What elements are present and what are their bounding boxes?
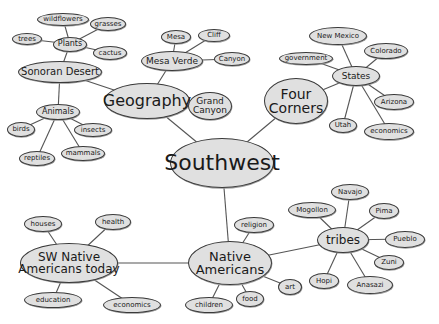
- node-anasazi: Anasazi: [347, 276, 393, 294]
- node-grasses: grasses: [90, 17, 126, 31]
- node-houses: houses: [24, 216, 62, 232]
- node-canyon: Canyon: [214, 52, 250, 66]
- node-economics2: economics: [103, 297, 161, 313]
- node-food: food: [236, 291, 264, 307]
- node-birds: birds: [7, 122, 35, 137]
- node-label: Colorado: [370, 48, 401, 55]
- node-label: Zuni: [381, 259, 397, 266]
- node-grandcanyon: Grand Canyon: [188, 92, 232, 120]
- node-utah: Utah: [329, 118, 357, 133]
- node-label: Pima: [375, 208, 392, 215]
- node-label: States: [342, 72, 371, 81]
- node-label: religion: [241, 222, 267, 229]
- node-label: Cliff: [207, 32, 221, 39]
- node-cactus: cactus: [93, 46, 127, 60]
- node-health: health: [95, 214, 131, 230]
- node-nativeamericans: Native Americans: [188, 241, 272, 285]
- node-label: Mogollon: [296, 207, 328, 214]
- node-label: Mesa: [167, 34, 185, 41]
- node-label: economics: [370, 128, 407, 135]
- node-mogollon: Mogollon: [288, 202, 336, 218]
- node-label: reptiles: [24, 155, 50, 162]
- node-label: Sonoran Desert: [21, 67, 99, 77]
- node-label: New Mexico: [317, 33, 359, 40]
- node-label: Plants: [58, 40, 82, 48]
- node-newmexico: New Mexico: [309, 27, 367, 45]
- node-label: Four Corners: [269, 87, 323, 115]
- node-education: education: [24, 292, 82, 308]
- node-label: children: [195, 302, 223, 309]
- node-label: Southwest: [164, 152, 280, 174]
- node-trees: trees: [12, 33, 42, 45]
- mind-map-canvas: SouthwestGeographySonoran DesertPlantswi…: [0, 0, 439, 324]
- node-label: Grand Canyon: [193, 97, 227, 115]
- node-label: Pueblo: [393, 236, 417, 243]
- node-insects: insects: [74, 123, 112, 137]
- node-reptiles: reptiles: [19, 151, 55, 166]
- node-swtoday: SW Native Americans today: [20, 243, 118, 283]
- node-label: Animals: [42, 108, 74, 116]
- node-fourcorners: Four Corners: [264, 78, 328, 124]
- node-label: education: [36, 297, 71, 304]
- node-label: Geography: [103, 93, 191, 109]
- node-label: Hopi: [316, 278, 332, 285]
- node-animals: Animals: [36, 104, 80, 120]
- node-label: cactus: [99, 50, 122, 57]
- node-label: houses: [31, 221, 56, 228]
- node-states: States: [332, 66, 380, 86]
- node-label: health: [102, 219, 124, 226]
- node-label: tribes: [326, 234, 360, 246]
- node-label: birds: [12, 126, 29, 133]
- node-colorado: Colorado: [364, 43, 408, 59]
- node-label: Mesa Verde: [146, 57, 198, 66]
- node-art: art: [278, 279, 302, 295]
- node-plants: Plants: [53, 37, 87, 52]
- node-label: food: [242, 296, 257, 303]
- node-pueblo: Pueblo: [385, 231, 425, 248]
- node-wildflowers: wildflowers: [37, 13, 89, 26]
- node-mesa: Mesa: [161, 30, 191, 44]
- node-religion: religion: [234, 217, 274, 233]
- node-label: Native Americans: [196, 250, 265, 276]
- node-label: Canyon: [219, 56, 245, 63]
- node-navajo: Navajo: [331, 184, 369, 200]
- node-arizona: Arizona: [374, 94, 414, 110]
- node-economics1: economics: [364, 123, 414, 140]
- node-label: government: [285, 55, 328, 62]
- node-sonoran: Sonoran Desert: [18, 61, 102, 83]
- node-label: insects: [81, 127, 106, 134]
- node-label: art: [285, 284, 295, 291]
- node-government: government: [279, 52, 333, 65]
- node-children: children: [185, 297, 233, 313]
- node-label: Anasazi: [356, 282, 383, 289]
- node-tribes: tribes: [317, 227, 369, 253]
- node-label: Navajo: [338, 189, 362, 196]
- node-label: Arizona: [381, 99, 407, 106]
- node-southwest: Southwest: [170, 138, 274, 188]
- node-label: economics: [113, 302, 150, 309]
- node-pima: Pima: [369, 203, 399, 219]
- node-mesaverde: Mesa Verde: [141, 51, 203, 71]
- node-label: SW Native Americans today: [18, 251, 119, 275]
- node-zuni: Zuni: [374, 255, 404, 270]
- node-hopi: Hopi: [309, 273, 339, 289]
- node-label: grasses: [95, 21, 122, 28]
- node-label: mammals: [66, 150, 101, 157]
- node-label: wildflowers: [43, 16, 82, 23]
- node-geography: Geography: [104, 83, 190, 119]
- node-cliff: Cliff: [198, 29, 230, 42]
- node-label: Utah: [335, 122, 352, 129]
- node-mammals: mammals: [61, 146, 105, 161]
- node-label: trees: [18, 36, 36, 43]
